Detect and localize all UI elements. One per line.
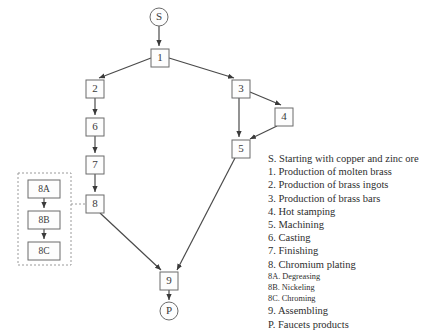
legend-item-sub: 8B. Nickeling	[268, 282, 433, 293]
legend-item: 3. Production of brass bars	[268, 192, 433, 205]
node-1[interactable]: 1	[151, 49, 169, 67]
node-8[interactable]: 8	[86, 195, 104, 213]
legend: S. Starting with copper and zinc ore 1. …	[268, 152, 433, 331]
node-4-label: 4	[281, 110, 287, 122]
node-3[interactable]: 3	[232, 80, 250, 98]
legend-item-sub: 8C. Chroming	[268, 293, 433, 304]
node-5-label: 5	[238, 142, 244, 154]
legend-item: 2. Production of brass ingots	[268, 178, 433, 191]
node-7[interactable]: 7	[86, 156, 104, 174]
legend-item: 4. Hot stamping	[268, 205, 433, 218]
node-8C[interactable]: 8C	[28, 242, 60, 260]
edge-3-to-4	[250, 92, 281, 105]
edge-1-to-3	[169, 58, 234, 78]
legend-item: 7. Finishing	[268, 244, 433, 257]
edge-4-to-5	[250, 126, 277, 139]
legend-item: P. Faucets products	[268, 318, 433, 331]
node-8B[interactable]: 8B	[28, 211, 60, 229]
node-5[interactable]: 5	[232, 140, 250, 158]
node-4[interactable]: 4	[275, 108, 293, 126]
node-7-label: 7	[92, 158, 98, 170]
node-1-label: 1	[157, 51, 163, 63]
edge-1-to-2	[99, 58, 151, 78]
node-P[interactable]: P	[160, 302, 178, 320]
node-8C-label: 8C	[38, 246, 49, 256]
node-8A[interactable]: 8A	[28, 180, 60, 198]
node-6-label: 6	[92, 120, 98, 132]
legend-item-sub: 8A. Degreasing	[268, 271, 433, 282]
node-6[interactable]: 6	[86, 118, 104, 136]
node-8-label: 8	[92, 197, 98, 209]
edge-5-to-9	[177, 158, 235, 270]
legend-item: 5. Machining	[268, 218, 433, 231]
node-8A-label: 8A	[38, 184, 50, 194]
legend-item: 9. Assembling	[268, 304, 433, 317]
node-S-label: S	[156, 10, 162, 22]
node-P-label: P	[166, 304, 172, 316]
legend-item: 1. Production of molten brass	[268, 165, 433, 178]
flowchart-page: S 1 2 3 4 5 6 7	[0, 0, 433, 334]
node-3-label: 3	[238, 82, 244, 94]
legend-item: S. Starting with copper and zinc ore	[268, 152, 433, 165]
node-2[interactable]: 2	[86, 80, 104, 98]
edge-8-to-9	[100, 213, 161, 270]
node-8B-label: 8B	[38, 215, 49, 225]
node-9[interactable]: 9	[160, 272, 178, 290]
node-2-label: 2	[92, 82, 98, 94]
legend-item: 8. Chromium plating	[268, 258, 433, 271]
node-9-label: 9	[166, 274, 172, 286]
legend-item: 6. Casting	[268, 231, 433, 244]
node-S[interactable]: S	[150, 8, 168, 26]
